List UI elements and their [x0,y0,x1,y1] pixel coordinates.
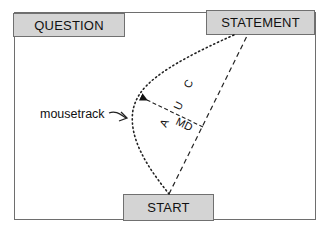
mousetrack-curve [132,34,236,194]
straight-path-line [169,34,248,194]
label-u: U [171,99,185,111]
label-md: MD [174,115,195,133]
label-c: C [181,77,195,89]
label-a: A [157,116,171,128]
mousetrack-label: mousetrack [40,107,105,121]
